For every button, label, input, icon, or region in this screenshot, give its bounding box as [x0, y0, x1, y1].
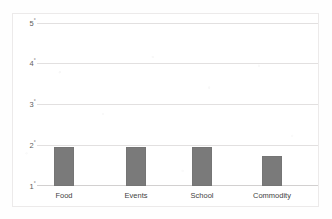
gridline-5 — [37, 23, 318, 24]
y-axis-tick-5: 5° — [14, 19, 36, 28]
y-axis-tick-1-unit: ° — [34, 180, 36, 186]
y-axis-tick-5-unit: ° — [34, 17, 36, 23]
gridline-3 — [37, 104, 318, 105]
bar-chart: 5° 4° 3° 2° 1° Food Events School Commod… — [0, 0, 332, 219]
y-axis-tick-2-unit: ° — [34, 139, 36, 145]
bar-food[interactable] — [54, 147, 74, 186]
y-axis-tick-3-unit: ° — [34, 98, 36, 104]
plot-area — [37, 23, 318, 186]
x-axis-label-events: Events — [125, 191, 148, 200]
bar-commodity[interactable] — [262, 156, 282, 186]
y-axis-tick-1: 1° — [14, 182, 36, 191]
y-axis-tick-4: 4° — [14, 59, 36, 68]
y-axis-tick-2: 2° — [14, 141, 36, 150]
x-axis-label-school: School — [191, 191, 214, 200]
x-axis-label-food: Food — [55, 191, 72, 200]
gridline-4 — [37, 63, 318, 64]
bar-school[interactable] — [192, 147, 212, 186]
gridline-2 — [37, 145, 318, 146]
y-axis-tick-3: 3° — [14, 100, 36, 109]
y-axis-tick-4-unit: ° — [34, 57, 36, 63]
bar-events[interactable] — [126, 147, 146, 186]
x-axis-label-commodity: Commodity — [253, 191, 291, 200]
